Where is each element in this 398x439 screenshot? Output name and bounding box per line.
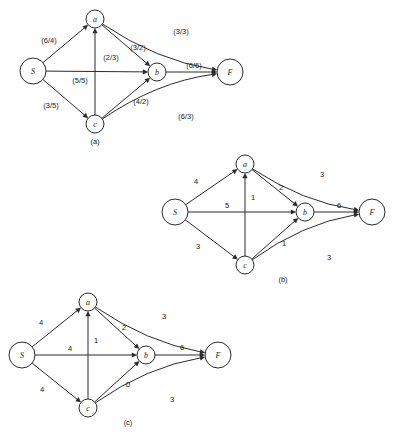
edges-group-b: 453121363 [185, 169, 359, 262]
node-label-a: a [243, 160, 247, 169]
edge-c-S-c: 4 [32, 363, 81, 402]
edge-label-c-S-c: 4 [40, 385, 44, 394]
edge-label-b-S-c: 3 [196, 242, 200, 251]
edge-line-c-F [95, 358, 200, 403]
node-b-S[interactable]: S [162, 199, 188, 225]
edge-line-a-F [95, 307, 200, 352]
edge-c-S-b: 4 [35, 344, 137, 358]
edge-b-a-b: 2 [252, 170, 298, 207]
edge-label-b-b-F: 6 [337, 201, 341, 210]
edge-c-S-a: 4 [32, 308, 81, 347]
edge-a-S-a: (6/4) [41, 25, 88, 63]
node-label-c: c [93, 120, 97, 129]
nodes-group-b: SabcF [162, 155, 385, 274]
edge-label-b-S-a: 4 [194, 177, 198, 186]
node-label-a: a [86, 298, 90, 307]
edge-label-c-c-F: 3 [170, 395, 174, 404]
node-c-c[interactable]: c [79, 399, 97, 417]
edge-label-a-a-F: (3/3) [173, 27, 189, 36]
edge-line-c-F [252, 215, 354, 260]
node-label-c: c [243, 261, 247, 270]
edge-c-c-b: 0 [95, 361, 140, 402]
diagram-panel-c: 444120363SabcF(c) [9, 293, 231, 427]
edge-line-S-c [32, 363, 77, 399]
edge-line-S-c [43, 79, 85, 115]
edge-a-S-b: (5/5) [46, 69, 148, 84]
node-label-b: b [303, 208, 307, 217]
edge-a-S-c: (3/5) [43, 79, 88, 118]
edge-b-c-a: 1 [242, 173, 255, 256]
edge-label-a-S-c: (3/5) [43, 101, 59, 110]
node-b-c[interactable]: c [236, 256, 254, 274]
edge-b-S-a: 4 [186, 169, 238, 205]
edge-line-S-c [185, 220, 234, 257]
node-label-S: S [173, 208, 177, 217]
node-label-F: F [227, 68, 233, 77]
node-a-F[interactable]: F [217, 59, 243, 85]
arrowhead-S-b [291, 209, 296, 214]
edge-a-b-F: (6/6) [166, 61, 217, 75]
edge-label-a-S-a: (6/4) [41, 36, 57, 45]
edge-label-a-b-F: (6/6) [186, 61, 202, 70]
arrowhead-S-b [143, 69, 148, 74]
edge-line-c-b [252, 221, 295, 259]
node-label-F: F [215, 351, 221, 360]
network-flow-figure: (6/4)(5/5)(3/5)(2/3)(3/2)(4/2)(3/3)(6/6)… [0, 0, 398, 439]
node-label-c: c [86, 404, 90, 413]
edge-b-S-b: 5 [188, 201, 296, 215]
edges-group-a: (6/4)(5/5)(3/5)(2/3)(3/2)(4/2)(3/3)(6/6)… [41, 24, 217, 120]
edge-label-a-a-b: (3/2) [130, 43, 146, 52]
edge-label-c-c-a: 1 [94, 336, 98, 345]
node-a-b[interactable]: b [148, 63, 166, 81]
edge-label-a-S-b: (5/5) [72, 76, 88, 85]
node-label-S: S [20, 351, 24, 360]
edge-line-a-b [95, 308, 136, 346]
edge-label-a-c-F: (6/3) [178, 112, 194, 121]
node-c-F[interactable]: F [205, 342, 231, 368]
node-b-a[interactable]: a [236, 155, 254, 173]
node-label-S: S [31, 67, 35, 76]
edge-b-c-b: 1 [252, 218, 299, 259]
edge-label-b-S-b: 5 [225, 201, 229, 210]
panel-caption-c: (c) [124, 418, 133, 427]
arrowhead-S-b [132, 352, 137, 357]
edge-b-b-F: 6 [314, 201, 359, 215]
node-label-F: F [369, 208, 375, 217]
node-a-a[interactable]: a [86, 10, 104, 28]
edge-label-c-S-b: 4 [68, 344, 72, 353]
edge-label-c-b-F: 6 [180, 343, 184, 352]
edge-label-b-c-F: 3 [327, 253, 331, 262]
edge-label-c-S-a: 4 [39, 318, 43, 327]
edge-a-c-b: (4/2) [102, 78, 150, 118]
edge-b-S-c: 3 [185, 220, 237, 260]
arrowhead-S-a [232, 169, 238, 174]
diagram-panel-a: (6/4)(5/5)(3/5)(2/3)(3/2)(4/2)(3/3)(6/6)… [20, 10, 243, 146]
node-a-S[interactable]: S [20, 58, 46, 84]
edge-line-a-b [252, 170, 294, 204]
node-label-b: b [155, 68, 159, 77]
node-c-b[interactable]: b [137, 346, 155, 364]
node-c-a[interactable]: a [79, 293, 97, 311]
edge-line-S-a [32, 311, 77, 347]
node-label-a: a [93, 15, 97, 24]
edge-label-c-a-F: 3 [162, 312, 166, 321]
edge-c-b-F: 6 [155, 343, 205, 358]
edge-label-b-a-F: 3 [320, 170, 324, 179]
arrowhead-S-c [232, 254, 238, 259]
node-c-S[interactable]: S [9, 342, 35, 368]
edge-label-b-c-a: 1 [251, 193, 255, 202]
arrowhead-c-a [242, 173, 247, 178]
arrowhead-c-a [92, 28, 97, 33]
edge-label-a-c-b: (4/2) [133, 97, 149, 106]
panel-caption-a: (a) [90, 137, 100, 146]
diagram-panel-b: 453121363SabcF(b) [162, 155, 385, 284]
node-b-F[interactable]: F [359, 199, 385, 225]
node-b-b[interactable]: b [296, 203, 314, 221]
edge-label-b-a-b: 2 [279, 183, 283, 192]
node-a-c[interactable]: c [86, 115, 104, 133]
figure-root: (6/4)(5/5)(3/5)(2/3)(3/2)(4/2)(3/3)(6/6)… [0, 0, 398, 439]
node-label-b: b [144, 351, 148, 360]
edges-group-c: 444120363 [32, 307, 205, 403]
panel-caption-b: (b) [278, 275, 288, 284]
edge-label-a-c-a: (2/3) [103, 53, 119, 62]
